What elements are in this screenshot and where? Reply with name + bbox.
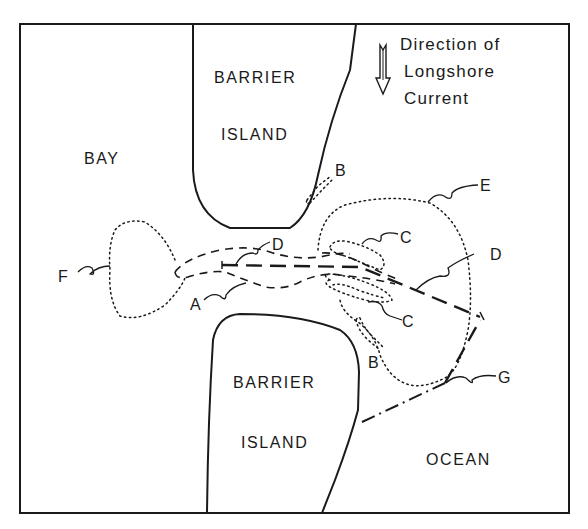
channel-margin-G-upper bbox=[445, 320, 480, 383]
label-G: G bbox=[498, 369, 510, 386]
region-label-ocean: OCEAN bbox=[426, 451, 491, 468]
leader-E bbox=[428, 185, 478, 202]
region-label-barrier-south-2: ISLAND bbox=[241, 434, 308, 451]
channel-outline-A bbox=[175, 248, 395, 288]
swash-bar-C-upper bbox=[330, 241, 384, 270]
ebb-tidal-delta-E bbox=[318, 198, 471, 385]
leader-C-upper bbox=[362, 233, 398, 244]
legend-line-2: Longshore bbox=[404, 62, 495, 81]
region-label-barrier-north-1: BARRIER bbox=[214, 69, 296, 86]
leader-F bbox=[78, 266, 110, 274]
label-A: A bbox=[190, 296, 201, 313]
legend-line-1: Direction of bbox=[400, 35, 500, 54]
leader-D-inner bbox=[236, 242, 270, 264]
swash-bar-C-lower-inner bbox=[333, 284, 385, 298]
flood-tidal-delta-F bbox=[110, 221, 185, 318]
tidal-inlet-diagram: Direction of Longshore Current BAY BARRI… bbox=[0, 0, 588, 529]
down-arrow-icon bbox=[376, 45, 390, 94]
label-D-inner: D bbox=[272, 236, 284, 253]
label-E: E bbox=[480, 177, 491, 194]
legend-line-3: Current bbox=[404, 89, 469, 108]
barrier-island-south-outline bbox=[207, 314, 359, 513]
channel-axis-D-end-tick bbox=[480, 312, 484, 320]
label-C-lower: C bbox=[402, 313, 414, 330]
region-label-barrier-north-2: ISLAND bbox=[221, 126, 288, 143]
region-label-barrier-south-1: BARRIER bbox=[233, 374, 315, 391]
leader-G bbox=[446, 376, 496, 384]
label-C-upper: C bbox=[400, 229, 412, 246]
label-F: F bbox=[58, 268, 68, 285]
channel-axis-D bbox=[222, 265, 480, 317]
label-B-south: B bbox=[368, 354, 379, 371]
label-B-north: B bbox=[335, 162, 346, 179]
leader-A bbox=[204, 283, 246, 300]
leader-D-outer bbox=[416, 254, 474, 290]
label-D-outer: D bbox=[490, 246, 502, 263]
channel-margin-G bbox=[362, 383, 445, 422]
leader-C-lower bbox=[368, 302, 402, 321]
region-label-bay: BAY bbox=[84, 150, 120, 167]
